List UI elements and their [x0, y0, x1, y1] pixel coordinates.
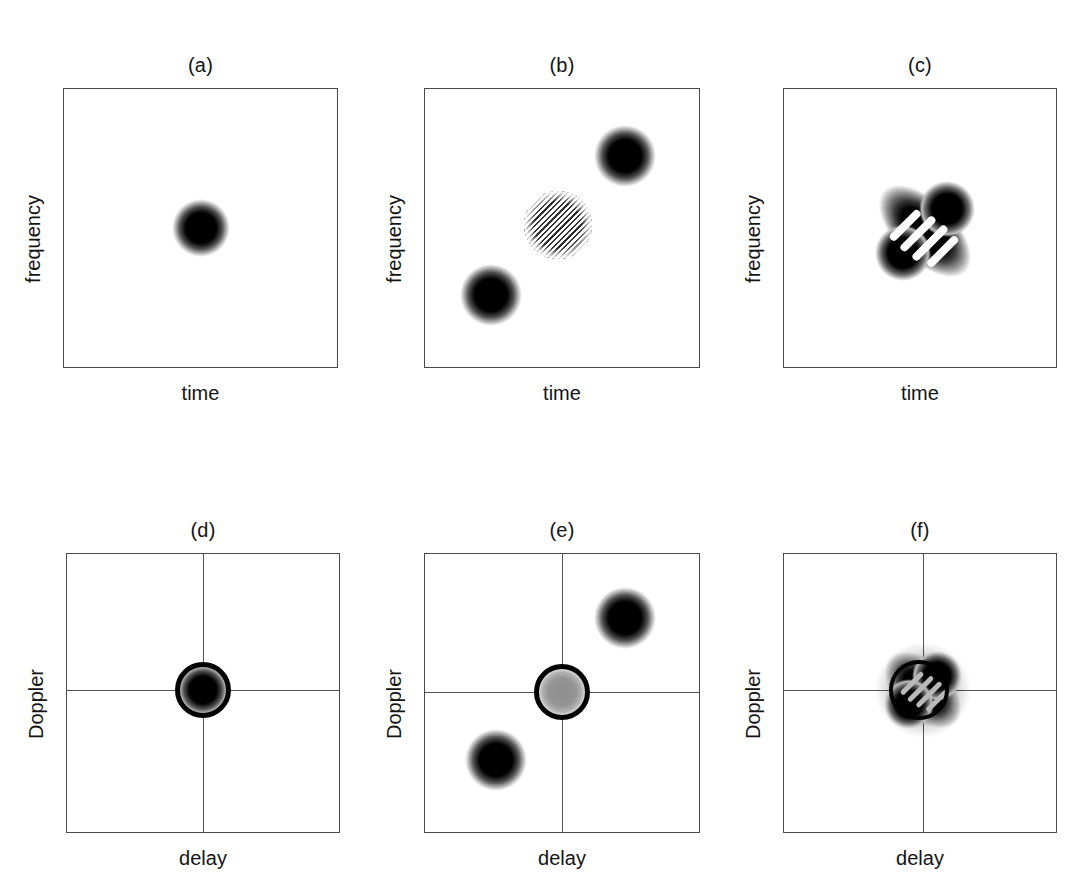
- panel-e-x-axis-label: delay: [424, 847, 700, 869]
- panel-e: (e) Doppler delay: [424, 553, 700, 833]
- panel-c-label: (c): [783, 54, 1057, 76]
- panel-c-plot-area: [783, 88, 1057, 368]
- kernel-outline-circle: [889, 660, 949, 720]
- panel-b-label: (b): [424, 54, 700, 76]
- panel-d-y-axis-label: Doppler: [25, 594, 47, 814]
- panel-b: (b) frequency time: [424, 88, 700, 368]
- panel-d-plot-area: [66, 553, 340, 833]
- panel-a-y-axis-label: frequency: [22, 129, 44, 349]
- panel-f-label: (f): [783, 519, 1057, 541]
- panel-f-x-axis-label: delay: [783, 847, 1057, 869]
- panel-d-x-axis-label: delay: [66, 847, 340, 869]
- panel-f: (f) Doppler delay: [783, 553, 1057, 833]
- cross-term-fringe-disc: [524, 191, 592, 259]
- panel-d: (d) Doppler delay: [66, 553, 340, 833]
- panel-a-label: (a): [63, 54, 338, 76]
- panel-e-label: (e): [424, 519, 700, 541]
- figure-canvas: (a) frequency time (b) frequency time (c…: [0, 0, 1091, 895]
- panel-b-x-axis-label: time: [424, 382, 700, 404]
- cross-term-blob-upper-right: [594, 587, 656, 649]
- panel-e-plot-area: [424, 553, 700, 833]
- panel-f-plot-area: [783, 553, 1057, 833]
- panel-d-label: (d): [66, 519, 340, 541]
- panel-c-x-axis-label: time: [783, 382, 1057, 404]
- panel-a-x-axis-label: time: [63, 382, 338, 404]
- cross-term-edge-fade: [524, 191, 592, 259]
- auto-term-blob-lower: [460, 264, 522, 326]
- panel-e-y-axis-label: Doppler: [383, 594, 405, 814]
- auto-term-blob: [172, 199, 230, 257]
- auto-term-blob-upper: [594, 125, 656, 187]
- panel-f-y-axis-label: Doppler: [742, 594, 764, 814]
- panel-c: (c) frequency time: [783, 88, 1057, 368]
- panel-b-plot-area: [424, 88, 700, 368]
- panel-a-plot-area: [63, 88, 338, 368]
- panel-b-y-axis-label: frequency: [383, 129, 405, 349]
- kernel-outline-circle: [534, 664, 590, 720]
- panel-c-y-axis-label: frequency: [742, 129, 764, 349]
- panel-a: (a) frequency time: [63, 88, 338, 368]
- kernel-outline-circle: [175, 662, 231, 718]
- cross-term-blob-lower-left: [465, 729, 527, 791]
